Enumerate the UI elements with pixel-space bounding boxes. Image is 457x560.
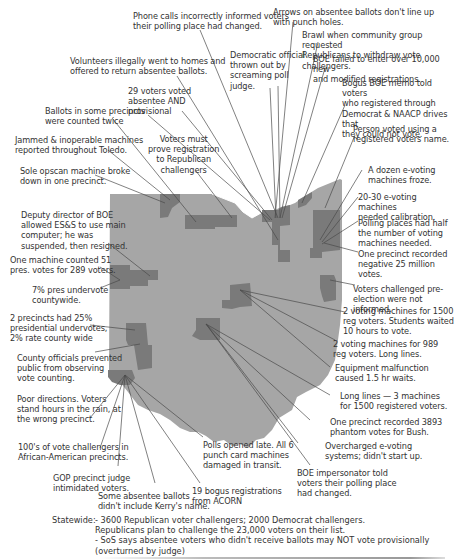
bottom-divider — [100, 557, 445, 559]
annotation-undervote-25: 2 precincts had 25% presidential undervo… — [10, 313, 107, 344]
annotation-jammed-machines: Jammed & inoperable machines reported th… — [15, 135, 143, 155]
annotation-volunteers: Volunteers illegally went to homes and o… — [70, 56, 225, 76]
annotation-long-lines-3: Long lines — 3 machines for 1500 registe… — [340, 391, 447, 411]
annotation-acorn: 19 bogus registrations from ACORN — [192, 486, 282, 506]
annotation-polls-late: Polls opened late. All 6 punch card mach… — [203, 440, 294, 471]
annotation-counted-twice: Ballots in some precincts were counted t… — [45, 106, 145, 126]
annotation-equipment-malfunction: Equipment malfunction caused 1.5 hr wait… — [335, 363, 429, 383]
annotation-negative-votes: One precinct recorded negative 25 millio… — [358, 249, 447, 280]
annotation-boe-impersonator: BOE impersonator told voters their polli… — [297, 468, 396, 499]
annotation-democratic-official: Democratic official thrown out by scream… — [230, 50, 305, 91]
statewide-label: Statewide: — [52, 515, 96, 525]
annotation-arrows-absentee: Arrows on absentee ballots don't line up… — [273, 7, 434, 27]
annotation-phone-calls: Phone calls incorrectly informed voters … — [133, 11, 289, 31]
annotation-undervote-7: 7% pres undervote countywide. — [32, 285, 108, 305]
annotation-phantom-votes: One precinct recorded 3893 phantom votes… — [330, 417, 442, 437]
annotation-machines-989: 2 voting machines for 989 reg voters. Lo… — [333, 339, 438, 359]
annotation-officials-prevented: County officials prevented public from o… — [17, 353, 122, 384]
statewide-text: - 3600 Republican voter challengers; 200… — [95, 515, 435, 556]
annotation-sole-opscan: Sole opscan machine broke down in one pr… — [20, 166, 130, 186]
annotation-prove-registration: Voters must prove registration to Republ… — [148, 134, 219, 175]
annotation-dozen-froze: A dozen e-voting machines froze. — [368, 165, 435, 185]
annotation-poor-directions: Poor directions. Voters stand hours in t… — [17, 394, 121, 425]
annotation-one-machine: One machine counted 51 pres. votes for 2… — [10, 255, 116, 275]
annotation-person-voted: Person voted using a registered voters n… — [353, 124, 449, 144]
annotation-overcharged: Overcharged e-voting systems; didn't sta… — [325, 441, 422, 461]
annotation-half-machines: Polling places had half the number of vo… — [358, 218, 447, 249]
annotation-students-waited: 2 voting machines for 1500 reg voters. S… — [343, 306, 454, 337]
annotation-deputy-director: Deputy director of BOE allowed ES&S to u… — [21, 210, 128, 251]
annotation-challengers-aa: 100's of vote challengers in African-Ame… — [18, 442, 129, 462]
